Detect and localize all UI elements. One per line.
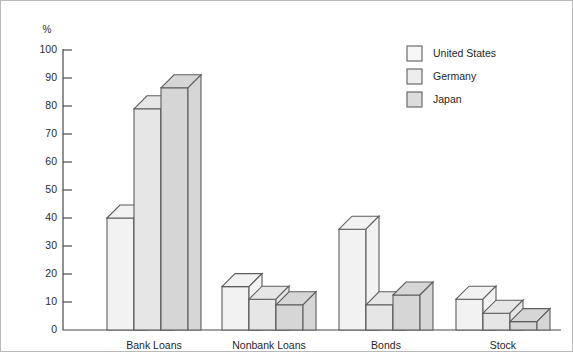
- bar-front-face: [510, 322, 537, 330]
- y-tick-label: 90: [45, 71, 57, 83]
- y-tick-label: 20: [45, 267, 57, 279]
- y-tick-label: 40: [45, 211, 57, 223]
- bar-bank-loans-japan: [161, 75, 201, 330]
- bar-front-face: [393, 295, 420, 330]
- legend-label-japan: Japan: [433, 93, 462, 105]
- x-axis-label-stock: Stock: [490, 339, 517, 351]
- bar-front-face: [276, 305, 303, 330]
- bar-side-face: [188, 75, 201, 330]
- legend-swatch-united-states: [407, 46, 422, 61]
- bar-front-face: [249, 299, 276, 330]
- x-axis-label-bonds: Bonds: [371, 339, 401, 351]
- y-axis-unit-label: %: [43, 24, 52, 35]
- bar-front-face: [366, 305, 393, 330]
- legend-label-germany: Germany: [433, 70, 477, 82]
- y-tick-label: 70: [45, 127, 57, 139]
- bar-front-face: [483, 313, 510, 330]
- bar-bonds-japan: [393, 282, 433, 330]
- y-tick-label: 100: [39, 43, 57, 55]
- chart-figure: 0102030405060708090100% Bank LoansNonban…: [0, 0, 573, 352]
- x-axis-label-nonbank-loans: Nonbank Loans: [232, 339, 306, 351]
- legend-label-united-states: United States: [433, 47, 496, 59]
- bar-front-face: [134, 109, 161, 330]
- bar-front-face: [222, 287, 249, 330]
- bar-front-face: [107, 218, 134, 330]
- y-tick-label: 0: [51, 323, 57, 335]
- bar-front-face: [456, 299, 483, 330]
- legend-swatch-germany: [407, 69, 422, 84]
- bar-chart-canvas: 0102030405060708090100% Bank LoansNonban…: [1, 1, 573, 352]
- y-tick-label: 50: [45, 183, 57, 195]
- chart-legend: United StatesGermanyJapan: [407, 46, 496, 107]
- y-tick-label: 10: [45, 295, 57, 307]
- y-tick-label: 30: [45, 239, 57, 251]
- bar-front-face: [161, 88, 188, 330]
- x-axis-category-labels: Bank LoansNonbank LoansBondsStock: [126, 339, 517, 351]
- y-tick-label: 60: [45, 155, 57, 167]
- bar-series-group: [107, 75, 550, 330]
- bar-front-face: [339, 229, 366, 330]
- x-axis-label-bank-loans: Bank Loans: [126, 339, 181, 351]
- legend-swatch-japan: [407, 92, 422, 107]
- y-tick-label: 80: [45, 99, 57, 111]
